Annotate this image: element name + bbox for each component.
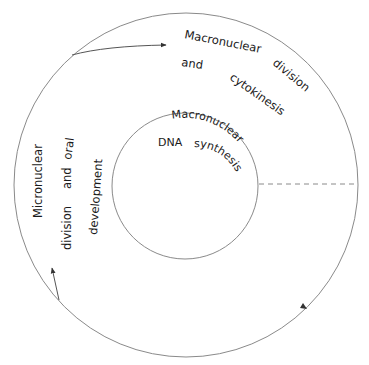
outer-label-cytokinesis: cytokinesis: [227, 70, 288, 118]
bottom-right-arrowhead-icon: [300, 303, 307, 309]
outer-label-development: development: [86, 158, 105, 235]
outer-label-and: and: [181, 55, 204, 72]
outer-label-division: division: [270, 56, 313, 95]
left-arrow-icon: [52, 268, 59, 300]
outer-label-oral: oral: [60, 137, 77, 161]
top-arrow-icon: [72, 45, 166, 55]
outer-label-macronuclear: Macronuclear: [183, 27, 262, 56]
cell-cycle-diagram: Macronuclear DNA synthesis Macronuclear …: [0, 0, 369, 365]
inner-label-dna: DNA: [158, 136, 183, 149]
outer-label-micronuclear: Micronuclear: [31, 144, 45, 218]
outer-label-and-left: and: [60, 167, 74, 189]
outer-label-division-left: division: [60, 206, 74, 250]
